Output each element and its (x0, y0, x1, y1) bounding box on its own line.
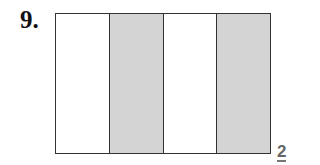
fraction-rectangle (55, 13, 271, 154)
rectangle-part-1 (56, 14, 109, 153)
answer-numerator: 2 (277, 143, 286, 162)
rectangle-part-3 (163, 14, 217, 153)
rectangle-part-2-shaded (109, 14, 163, 153)
problem-number: 9. (20, 6, 39, 34)
rectangle-part-4-shaded (216, 14, 270, 153)
